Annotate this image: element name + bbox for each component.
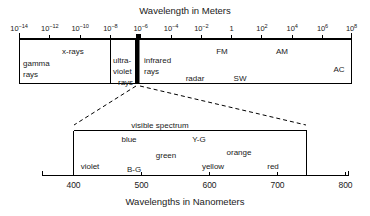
projection-lines (74, 86, 306, 125)
visible-color-label-blue-green: B-G (127, 166, 141, 174)
visible-color-label-yellow: yellow (202, 163, 224, 171)
bottom-axis-title: Wavelengths in Nanometers (0, 197, 370, 207)
band-label-gamma-rays-line1: gamma (23, 60, 50, 68)
tick-label-nm-600: 600 (202, 181, 216, 190)
tick-label-meters-6: 10−4 (164, 25, 178, 33)
tick-label-nm-400: 400 (66, 181, 80, 190)
visible-band-divider (135, 39, 140, 84)
tick-label-meters-1: 10−14 (10, 25, 27, 33)
visible-color-label-violet: violet (81, 163, 100, 171)
electromagnetic-spectrum-figure: Wavelength in Meters 10−14 10−12 10−10 1… (0, 0, 370, 216)
tick-label-meters-10: 104 (287, 25, 298, 33)
band-label-infrared-rays-line1: infrared (144, 57, 171, 65)
meters-axis (19, 33, 352, 39)
band-label-am: AM (276, 48, 288, 56)
visible-color-label-red: red (267, 163, 279, 171)
band-label-ac: AC (333, 66, 344, 74)
band-label-x-rays: x-rays (62, 48, 84, 56)
tick-label-meters-8: 1 (230, 25, 234, 33)
band-label-ultraviolet-rays-line2: violet (113, 68, 132, 76)
band-label-infrared-rays-line2: rays (144, 68, 159, 76)
band-label-ultraviolet-rays-line1: ultra- (113, 57, 131, 65)
tick-label-meters-11: 106 (317, 25, 328, 33)
top-axis-title: Wavelength in Meters (0, 6, 370, 16)
tick-label-nm-700: 700 (270, 181, 284, 190)
tick-label-meters-4: 10−8 (103, 25, 117, 33)
band-label-radar: radar (186, 75, 205, 83)
tick-label-nm-800: 800 (338, 181, 352, 190)
nanometer-axis (42, 171, 349, 176)
tick-label-meters-7: 10−2 (194, 25, 208, 33)
visible-color-label-orange: orange (227, 149, 252, 157)
visible-color-label-green: green (156, 152, 176, 160)
tick-label-meters-5: 10−6 (134, 25, 148, 33)
band-label-ultraviolet-rays-line3: rays (118, 79, 133, 87)
tick-label-meters-2: 10−12 (41, 25, 58, 33)
band-label-sw: SW (234, 75, 247, 83)
band-label-fm: FM (216, 48, 228, 56)
band-label-gamma-rays-line2: rays (23, 71, 38, 79)
visible-color-label-yellow-green: Y-G (192, 136, 206, 144)
visible-spectrum-heading: visible spectrum (131, 122, 188, 130)
tick-label-meters-12: 108 (346, 25, 357, 33)
tick-label-meters-3: 10−10 (71, 25, 88, 33)
tick-label-meters-9: 102 (256, 25, 267, 33)
visible-band-axis-marker (136, 34, 141, 39)
visible-color-label-blue: blue (121, 136, 136, 144)
tick-label-nm-500: 500 (134, 181, 148, 190)
